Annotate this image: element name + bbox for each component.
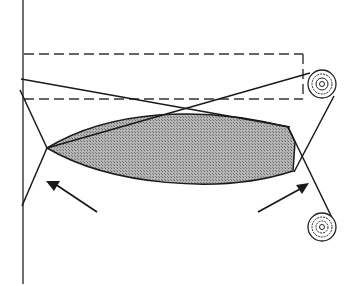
- shaded-body: [47, 114, 295, 184]
- dashed-rectangle: [24, 54, 303, 99]
- right-arrow-icon: [258, 183, 309, 212]
- top-roll-icon: [308, 70, 336, 98]
- left-arrow-icon: [46, 181, 97, 212]
- diagram: [0, 0, 360, 286]
- bottom-roll-icon: [308, 213, 336, 241]
- diagram-canvas: [0, 0, 360, 286]
